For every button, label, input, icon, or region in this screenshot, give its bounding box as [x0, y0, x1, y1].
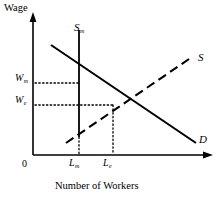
origin-label: 0	[22, 159, 27, 169]
wage-equilibrium-label-base: W	[15, 94, 23, 105]
x-axis-arrowhead	[203, 152, 213, 159]
supply-curve	[66, 57, 192, 143]
x-axis-title: Number of Workers	[55, 181, 139, 192]
y-axis-title: Wage	[4, 3, 28, 14]
labor-equilibrium-label-subscript: e	[109, 163, 112, 169]
labor-min-label-subscript: m	[75, 163, 79, 169]
wage-equilibrium-label-subscript: e	[24, 100, 27, 106]
wage-min-label-subscript: m	[24, 78, 28, 84]
y-axis-arrowhead	[30, 12, 37, 22]
labor-equilibrium-label-base: L	[103, 157, 109, 168]
demand-curve	[51, 45, 196, 143]
labor-equilibrium-label: Le	[103, 158, 111, 168]
restricted-supply-label-base: S	[74, 21, 80, 33]
minimum-wage-diagram: Wage Number of Workers 0 Sm S D Wm We Lm…	[0, 0, 221, 198]
restricted-supply-curve-label: Sm	[74, 22, 84, 33]
wage-min-label-base: W	[15, 72, 23, 83]
supply-curve-label: S	[198, 52, 204, 63]
wage-min-label: Wm	[15, 73, 28, 83]
labor-min-label-base: L	[69, 157, 75, 168]
wage-equilibrium-label: We	[15, 95, 26, 105]
labor-min-label: Lm	[69, 158, 79, 168]
demand-curve-label: D	[199, 134, 207, 145]
restricted-supply-label-subscript: m	[80, 28, 84, 34]
